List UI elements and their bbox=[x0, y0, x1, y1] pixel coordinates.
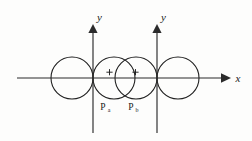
point-label-pb-base: P bbox=[128, 102, 133, 112]
y-axis-right-label: y bbox=[160, 11, 166, 23]
point-label-pa-subscript: a bbox=[108, 107, 111, 113]
physics-circles-diagram: y y x P a P b bbox=[0, 0, 252, 141]
point-label-pb-subscript: b bbox=[136, 107, 139, 113]
x-axis-label: x bbox=[235, 72, 241, 84]
point-label-pa-base: P bbox=[100, 102, 105, 112]
y-axis-left-arrow-icon bbox=[88, 24, 97, 33]
x-axis-arrow-icon bbox=[221, 73, 231, 83]
point-label-pa: P a bbox=[100, 102, 110, 113]
y-axis-left-label: y bbox=[96, 11, 102, 23]
y-axis-right-arrow-icon bbox=[152, 24, 161, 33]
point-label-pb: P b bbox=[128, 102, 138, 113]
diagram-canvas: y y x P a P b bbox=[0, 0, 252, 141]
charge-a-plus-icon bbox=[106, 69, 112, 75]
